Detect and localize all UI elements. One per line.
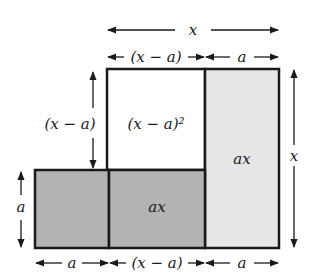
label-right-strip: ax — [233, 150, 251, 168]
dimension-left-lower: a — [17, 172, 26, 247]
dimension-bottom-right: a — [206, 254, 278, 272]
dimension-bottom-middle: (x − a) — [110, 254, 204, 272]
dimension-bottom-left: a — [36, 254, 108, 272]
dimension-top-total: x — [108, 21, 278, 39]
dimension-left-upper: (x − a) — [44, 72, 95, 168]
label-left-lower: a — [17, 198, 26, 216]
bottom-left-square — [35, 170, 109, 248]
label-left-upper: (x − a) — [44, 115, 95, 133]
label-bottom-middle: (x − a) — [131, 254, 182, 272]
area-diagram: (x − a)² ax ax x (x − a) a (x − a) a x — [0, 0, 315, 280]
label-top-total: x — [189, 21, 198, 39]
label-bottom-middle: ax — [148, 198, 166, 216]
label-bottom-right: a — [238, 254, 247, 272]
dimension-top-right: a — [206, 48, 278, 66]
label-right-total: x — [290, 147, 299, 165]
dimension-right-total: x — [290, 70, 299, 247]
label-bottom-left: a — [68, 254, 77, 272]
label-square: (x − a)² — [127, 115, 184, 133]
dimension-top-left: (x − a) — [108, 48, 204, 66]
label-top-right: a — [238, 48, 247, 66]
label-top-left: (x − a) — [130, 48, 181, 66]
